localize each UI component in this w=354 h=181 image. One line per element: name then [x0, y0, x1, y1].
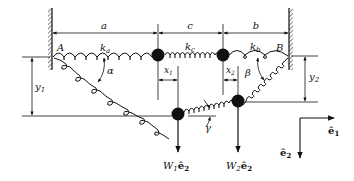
label-b: b	[253, 20, 259, 31]
label-w1: W1ê2	[163, 160, 189, 173]
coordinate-axes	[300, 118, 334, 158]
label-e2: ê2	[280, 147, 291, 160]
alpha-arc	[98, 58, 104, 82]
mass-1-equilibrium	[152, 49, 165, 62]
label-A: A	[56, 42, 64, 53]
right-wall	[289, 8, 293, 70]
beta-arc	[258, 58, 264, 80]
left-wall	[48, 8, 52, 70]
label-kb: kb	[250, 41, 261, 54]
label-a: a	[101, 20, 107, 31]
label-kc: kc	[185, 41, 195, 54]
label-w2: W2ê2	[226, 160, 252, 173]
y2-dimension	[245, 56, 318, 102]
label-y2: y2	[308, 71, 320, 84]
mass-1-displaced	[172, 108, 185, 121]
label-e1: ê1	[328, 125, 339, 138]
mass-2-equilibrium	[217, 49, 230, 62]
label-B: B	[275, 42, 283, 53]
spring-mass-diagram: a c b	[0, 0, 354, 181]
label-gamma: γ	[205, 122, 211, 133]
mass-2-displaced	[232, 95, 245, 108]
label-c: c	[187, 20, 193, 31]
label-x2: x2	[226, 65, 235, 76]
spring-kc-displaced	[184, 100, 233, 114]
label-beta: β	[244, 67, 251, 78]
label-y1: y1	[34, 81, 45, 94]
spring-kb-displaced	[243, 58, 288, 105]
label-x1: x1	[164, 65, 173, 76]
label-alpha: α	[107, 65, 114, 76]
dimension-line-top	[53, 24, 288, 100]
